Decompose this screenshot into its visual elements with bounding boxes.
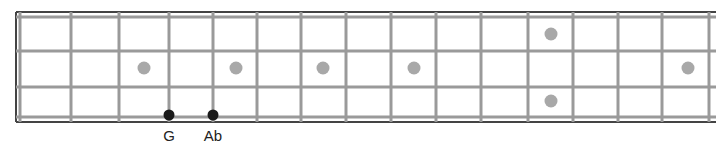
fretboard-diagram <box>0 0 721 150</box>
frets <box>71 12 709 122</box>
note-dot-icon <box>208 110 219 121</box>
inlay-dot-icon <box>545 95 558 108</box>
inlay-dot-icon <box>317 62 330 75</box>
note-label-g: G <box>163 127 175 144</box>
note-dot-icon <box>164 110 175 121</box>
inlay-dots <box>138 28 695 108</box>
note-label-ab: Ab <box>204 127 222 144</box>
inlay-dot-icon <box>230 62 243 75</box>
note-markers <box>164 110 219 121</box>
inlay-dot-icon <box>408 62 421 75</box>
fretboard-frame <box>16 12 716 122</box>
inlay-dot-icon <box>682 62 695 75</box>
strings <box>16 17 716 117</box>
inlay-dot-icon <box>138 62 151 75</box>
inlay-dot-icon <box>545 28 558 41</box>
